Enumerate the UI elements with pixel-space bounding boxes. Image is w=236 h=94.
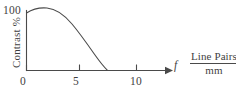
x-axis-tick-label-5: 5 <box>73 76 79 88</box>
x-axis-tick-label-10: 10 <box>130 76 142 88</box>
x-axis-tick-label-0: 0 <box>20 76 26 88</box>
contrast-vs-frequency-chart: 100 Contrast % 0 5 10 f Line Pairs mm <box>0 0 236 94</box>
y-axis-title: Contrast % <box>11 11 22 75</box>
chart-plot-area <box>0 0 236 94</box>
x-axis-arrowhead <box>165 67 173 74</box>
x-axis-unit-denominator: mm <box>190 64 236 76</box>
mtf-curve-line <box>27 8 108 71</box>
x-axis-variable-symbol: f <box>174 60 177 72</box>
x-axis-unit-fraction: Line Pairs mm <box>190 51 236 76</box>
x-axis-unit-numerator: Line Pairs <box>190 51 236 64</box>
